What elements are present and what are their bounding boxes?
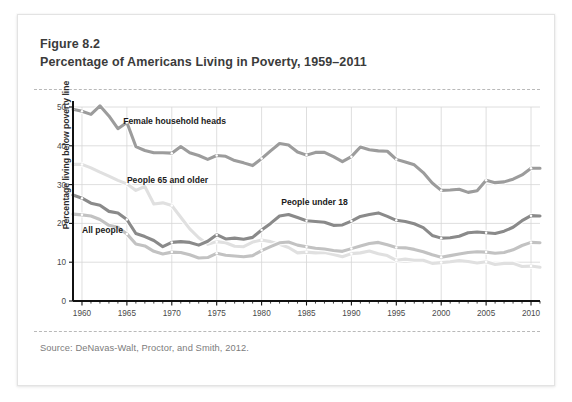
data-point-marker [260, 157, 263, 160]
data-point-marker [485, 231, 488, 234]
x-tick-label: 1990 [342, 309, 361, 318]
data-point-marker [215, 233, 218, 236]
x-tick-label: 2010 [522, 309, 541, 318]
data-point-marker [126, 233, 129, 236]
line-chart: 0102030405019601965197019751980198519901… [28, 93, 548, 331]
x-tick-label: 1985 [297, 309, 316, 318]
data-point-marker [171, 241, 174, 244]
data-point-marker [81, 163, 84, 166]
data-point-marker [305, 154, 308, 157]
data-point-marker [530, 214, 533, 217]
data-point-marker [171, 204, 174, 207]
figure-title: Percentage of Americans Living in Povert… [40, 55, 367, 69]
data-point-marker [530, 241, 533, 244]
data-point-marker [260, 239, 263, 242]
data-point-marker [485, 251, 488, 254]
data-point-marker [395, 219, 398, 222]
x-tick-label: 1960 [73, 309, 92, 318]
data-point-marker [305, 219, 308, 222]
data-point-marker [395, 246, 398, 249]
y-tick-label: 40 [57, 142, 67, 151]
series-annotation: Female household heads [123, 116, 226, 126]
data-point-marker [215, 240, 218, 243]
data-point-marker [350, 220, 353, 223]
y-tick-label: 0 [61, 297, 66, 306]
x-tick-label: 1970 [163, 309, 182, 318]
data-point-marker [260, 229, 263, 232]
y-tick-label: 20 [57, 219, 67, 228]
divider-top [34, 89, 540, 90]
x-tick-label: 1965 [118, 309, 137, 318]
data-point-marker [81, 214, 84, 217]
y-tick-label: 10 [57, 258, 67, 267]
data-point-marker [81, 110, 84, 113]
data-point-marker [305, 245, 308, 248]
data-point-marker [440, 189, 443, 192]
figure-number: Figure 8.2 [40, 37, 100, 51]
y-tick-label: 50 [57, 103, 67, 112]
chart-area: Percentage living below poverty line 010… [28, 93, 548, 331]
data-point-marker [440, 261, 443, 264]
data-point-marker [126, 218, 129, 221]
data-point-marker [530, 265, 533, 268]
data-point-marker [350, 247, 353, 250]
source-note: Source: DeNavas-Walt, Proctor, and Smith… [40, 343, 249, 353]
x-tick-label: 1980 [252, 309, 271, 318]
data-point-marker [440, 256, 443, 259]
data-point-marker [350, 155, 353, 158]
series-annotation: People under 18 [281, 197, 348, 207]
page-root: Figure 8.2 Percentage of Americans Livin… [0, 0, 572, 402]
data-point-marker [485, 261, 488, 264]
data-point-marker [485, 179, 488, 182]
data-point-marker [215, 154, 218, 157]
x-tick-label: 1995 [387, 309, 406, 318]
divider-bottom [34, 331, 540, 332]
data-point-marker [305, 251, 308, 254]
x-tick-label: 2000 [432, 309, 451, 318]
x-tick-label: 1975 [208, 309, 227, 318]
data-point-marker [395, 259, 398, 262]
y-tick-label: 30 [57, 181, 67, 190]
data-point-marker [215, 252, 218, 255]
series-annotation: All people [82, 225, 123, 235]
data-point-marker [81, 197, 84, 200]
series-annotation: People 65 and older [127, 175, 209, 185]
data-point-marker [260, 249, 263, 252]
data-point-marker [440, 237, 443, 240]
data-point-marker [530, 167, 533, 170]
data-point-marker [350, 252, 353, 255]
data-point-marker [171, 251, 174, 254]
x-tick-label: 2005 [477, 309, 496, 318]
data-point-marker [395, 158, 398, 161]
data-point-marker [171, 152, 174, 155]
figure-card: Figure 8.2 Percentage of Americans Livin… [17, 14, 555, 386]
